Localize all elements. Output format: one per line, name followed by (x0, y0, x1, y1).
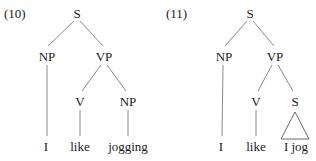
node-v: V (75, 94, 85, 109)
node-v: V (251, 94, 261, 109)
tree-11: (11) S NP VP V S I like I jog (166, 6, 309, 154)
leaf-i-jog: I jog (284, 139, 309, 154)
edge-vp-v (258, 65, 272, 91)
example-number: (10) (4, 6, 26, 21)
tree-10: (10) S NP VP V NP I like jogging (4, 6, 148, 154)
node-vp: VP (96, 49, 113, 64)
edge-vp-s (278, 65, 293, 91)
node-np-object: NP (120, 94, 137, 109)
example-number: (11) (166, 6, 187, 21)
node-np-subject: NP (216, 49, 233, 64)
edge-s-vp (253, 21, 274, 46)
edge-s-np (48, 21, 74, 46)
edge-vp-v (82, 65, 101, 91)
node-vp: VP (267, 49, 284, 64)
edge-s-np (225, 21, 247, 46)
edge-s-vp (80, 21, 103, 46)
leaf-i: I (44, 139, 48, 154)
node-s: S (73, 6, 80, 21)
leaf-i: I (219, 139, 223, 154)
edge-vp-np (107, 65, 126, 91)
node-s-embedded: S (291, 94, 298, 109)
leaf-like: like (246, 139, 266, 154)
edge-np-i (222, 65, 223, 136)
triangle-abbreviation-icon (281, 112, 309, 139)
leaf-like: like (70, 139, 90, 154)
leaf-jogging: jogging (107, 139, 148, 154)
syntax-trees-figure: (10) S NP VP V NP I like jogging (11) S (0, 0, 316, 161)
node-s: S (246, 6, 253, 21)
node-np-subject: NP (39, 49, 56, 64)
